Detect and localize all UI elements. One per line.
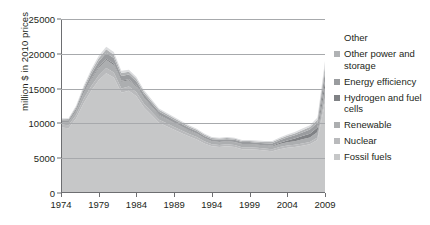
legend-label: Hydrogen and fuel cells: [344, 92, 430, 115]
x-tick-mark-1974: [61, 193, 62, 197]
y-tick-mark-5000: [57, 158, 61, 159]
x-tick-mark-1999: [250, 193, 251, 197]
legend-label: Other power and storage: [344, 48, 430, 71]
legend-item-nuclear[interactable]: Nuclear: [334, 135, 430, 147]
legend-swatch-icon: [334, 35, 340, 41]
gridline-20000: [61, 54, 325, 55]
chart-legend: OtherOther power and storageEnergy effic…: [334, 32, 430, 167]
legend-swatch-icon: [334, 138, 340, 144]
y-tick-mark-20000: [57, 53, 61, 54]
y-tick-label-15000: 15000: [29, 83, 55, 94]
y-tick-mark-10000: [57, 123, 61, 124]
y-tick-label-5000: 5000: [34, 153, 55, 164]
gridline-10000: [61, 123, 325, 124]
y-tick-label-25000: 25000: [29, 14, 55, 25]
y-tick-mark-15000: [57, 88, 61, 89]
x-tick-label-2004: 2004: [277, 199, 298, 210]
y-tick-label-0: 0: [50, 188, 55, 199]
x-tick-label-1989: 1989: [164, 199, 185, 210]
x-tick-label-1984: 1984: [126, 199, 147, 210]
x-tick-mark-2009: [325, 193, 326, 197]
gridline-25000: [61, 19, 325, 20]
legend-swatch-icon: [334, 95, 340, 101]
legend-label: Renewable: [344, 119, 430, 131]
legend-item-other[interactable]: Other: [334, 32, 430, 44]
x-tick-mark-1994: [212, 193, 213, 197]
legend-item-hydrogen-and-fuel-cells[interactable]: Hydrogen and fuel cells: [334, 92, 430, 115]
x-tick-label-1994: 1994: [201, 199, 222, 210]
x-tick-label-2009: 2009: [314, 199, 335, 210]
legend-swatch-icon: [334, 122, 340, 128]
y-tick-mark-25000: [57, 19, 61, 20]
x-tick-mark-1984: [136, 193, 137, 197]
legend-label: Energy efficiency: [344, 76, 430, 88]
legend-swatch-icon: [334, 51, 340, 57]
plot-area: 0500010000150002000025000 19741979198419…: [61, 19, 325, 193]
y-tick-label-10000: 10000: [29, 118, 55, 129]
gridline-15000: [61, 89, 325, 90]
chart-container: million $ in 2010 prices 050001000015000…: [0, 0, 430, 225]
x-tick-mark-1979: [99, 193, 100, 197]
legend-label: Nuclear: [344, 135, 430, 147]
x-tick-label-1979: 1979: [88, 199, 109, 210]
gridline-5000: [61, 158, 325, 159]
x-tick-mark-2004: [287, 193, 288, 197]
x-tick-label-1999: 1999: [239, 199, 260, 210]
legend-item-fossil-fuels[interactable]: Fossil fuels: [334, 151, 430, 163]
legend-item-energy-efficiency[interactable]: Energy efficiency: [334, 76, 430, 88]
plot-axis-frame: [61, 19, 325, 193]
legend-item-renewable[interactable]: Renewable: [334, 119, 430, 131]
legend-swatch-icon: [334, 154, 340, 160]
x-tick-mark-1989: [174, 193, 175, 197]
legend-swatch-icon: [334, 79, 340, 85]
legend-item-other-power-and-storage[interactable]: Other power and storage: [334, 48, 430, 71]
legend-label: Other: [344, 32, 430, 44]
y-tick-label-20000: 20000: [29, 48, 55, 59]
x-tick-label-1974: 1974: [50, 199, 71, 210]
legend-label: Fossil fuels: [344, 151, 430, 163]
